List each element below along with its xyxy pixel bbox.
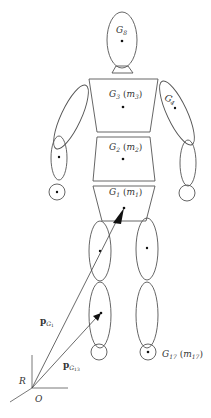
left-arm (47, 81, 95, 200)
label-origin-o: O (35, 394, 43, 404)
label-p-g1: pG1 (40, 316, 54, 328)
label-g1-m1: G1 (m1) (109, 187, 142, 198)
abdomen-com-dot (122, 158, 125, 161)
label-g2-m2: G2 (m2) (109, 142, 142, 153)
neck-segment (112, 66, 133, 73)
head-segment: G8 (107, 12, 137, 68)
reference-frame: R O (10, 355, 68, 404)
body-segment-diagram: G8 G3 (m3) G2 (m2) G1 (m1) G4 (0, 0, 211, 418)
pelvis-segment: G1 (m1) (93, 186, 155, 221)
label-g4: G4 (163, 92, 177, 106)
left-upper-arm (47, 81, 95, 153)
right-arm: G4 (153, 77, 201, 201)
right-shin (136, 282, 158, 348)
abdomen-segment: G2 (m2) (93, 137, 155, 181)
label-g17-m17: G17 (m17) (162, 349, 203, 360)
chest-segment: G3 (m3) (89, 79, 158, 132)
right-leg: G17 (m17) (136, 218, 203, 360)
label-frame-r: R (18, 376, 26, 386)
label-g3-m3: G3 (m3) (109, 89, 142, 100)
head-com-dot (121, 40, 124, 43)
left-foot (91, 344, 107, 360)
label-g8: G8 (116, 25, 127, 36)
arrowhead-g1 (113, 208, 124, 224)
position-vector-g1: pG1 (32, 208, 124, 388)
left-leg (89, 221, 111, 360)
label-p-g13: pG13 (63, 360, 80, 372)
right-hand (179, 185, 195, 201)
axis-depth (10, 388, 32, 402)
chest-com-dot (122, 106, 125, 109)
right-forearm (180, 140, 196, 186)
right-upper-arm (153, 77, 201, 149)
